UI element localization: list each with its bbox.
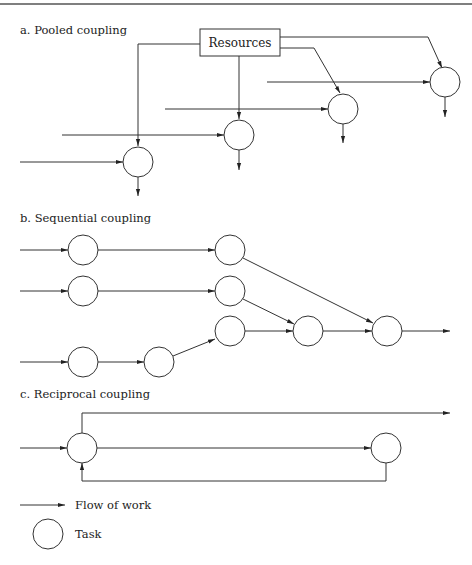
resource-to-task4-arrow xyxy=(280,37,442,68)
coupling-diagram: a. Pooled coupling Resources b. Sequenti… xyxy=(0,0,472,565)
flow-arrow xyxy=(173,339,215,356)
reciprocal-coupling-section: c. Reciprocal coupling xyxy=(20,387,450,481)
task-circle xyxy=(123,147,153,177)
section-title-pooled: a. Pooled coupling xyxy=(20,23,128,37)
task-circle xyxy=(372,316,402,346)
task-circle xyxy=(67,433,97,463)
resource-to-task1-arrow xyxy=(138,44,200,146)
output-arrow xyxy=(82,413,450,433)
task-circle xyxy=(144,347,174,377)
task-circle xyxy=(215,235,245,265)
sequential-coupling-section: b. Sequential coupling xyxy=(20,211,450,377)
task-circle xyxy=(430,67,460,97)
task-circle xyxy=(371,433,401,463)
legend-task-label: Task xyxy=(75,527,103,541)
task-circle xyxy=(293,316,323,346)
pooled-coupling-section: a. Pooled coupling Resources xyxy=(20,23,460,196)
task-circle xyxy=(68,347,98,377)
resource-to-task3-arrow xyxy=(280,48,340,93)
task-circle xyxy=(215,316,245,346)
legend: Flow of work Task xyxy=(20,498,152,549)
task-circle xyxy=(328,94,358,124)
section-title-reciprocal: c. Reciprocal coupling xyxy=(20,387,151,401)
flow-arrow xyxy=(243,299,294,324)
feedback-arrow xyxy=(82,463,386,481)
section-title-sequential: b. Sequential coupling xyxy=(20,211,152,225)
task-circle xyxy=(224,120,254,150)
flow-arrow xyxy=(243,258,373,323)
task-circle xyxy=(68,235,98,265)
legend-task-circle-icon xyxy=(33,519,63,549)
task-circle xyxy=(215,276,245,306)
legend-flow-label: Flow of work xyxy=(75,498,152,512)
resources-label: Resources xyxy=(209,36,272,50)
task-circle xyxy=(68,276,98,306)
